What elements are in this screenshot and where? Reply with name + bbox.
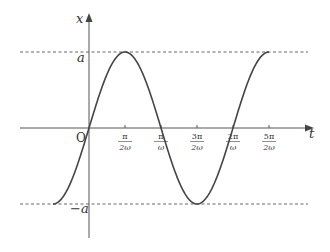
x-tick-numerator: π — [122, 132, 127, 141]
y-tick-a: a — [77, 50, 85, 65]
sine-chart: π2ωπω3π2ω2πω5π2ω x t O a −a — [0, 0, 330, 252]
x-tick-denominator: 2ω — [190, 143, 203, 152]
x-tick-numerator: 5π — [264, 132, 274, 141]
x-tick-denominator: ω — [230, 143, 237, 152]
x-tick-numerator: 3π — [192, 132, 202, 141]
y-axis-label: x — [76, 11, 84, 26]
y-tick-neg-a: −a — [70, 201, 89, 216]
x-tick-denominator: 2ω — [118, 143, 131, 152]
x-tick-denominator: ω — [158, 143, 165, 152]
x-axis-label: t — [309, 126, 315, 141]
origin-label: O — [76, 131, 86, 145]
x-ticks: π2ωπω3π2ω2πω5π2ω — [118, 125, 276, 152]
y-axis-arrow-icon — [86, 13, 93, 22]
x-tick-denominator: 2ω — [262, 143, 275, 152]
